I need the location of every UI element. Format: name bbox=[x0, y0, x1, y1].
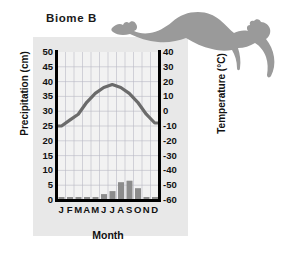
right-axis-ticks: 40 30 20 10 0 -10 -20 -30 -40 -50 -60 bbox=[163, 0, 193, 260]
right-tick-m30: -30 bbox=[163, 151, 177, 161]
plot-graphics bbox=[57, 52, 159, 200]
left-tick-45: 45 bbox=[27, 62, 53, 72]
climatogram-figure: Biome B bbox=[0, 0, 288, 260]
month-axis-labels: J F M A M J J A S O N D bbox=[57, 204, 159, 218]
right-axis-spine bbox=[158, 50, 161, 202]
left-tick-25: 25 bbox=[27, 121, 53, 131]
left-tick-50: 50 bbox=[27, 47, 53, 57]
right-tick-m10: -10 bbox=[163, 121, 177, 131]
right-tick-m20: -20 bbox=[163, 136, 177, 146]
right-tick-10: 10 bbox=[163, 91, 174, 101]
right-tick-30: 30 bbox=[163, 62, 174, 72]
right-tick-m60: -60 bbox=[163, 195, 177, 205]
right-tick-m40: -40 bbox=[163, 165, 177, 175]
left-tick-40: 40 bbox=[27, 77, 53, 87]
right-tick-20: 20 bbox=[163, 77, 174, 87]
left-axis-title: Precipitation (cm) bbox=[19, 34, 30, 154]
bottom-axis-spine bbox=[55, 199, 161, 202]
left-tick-35: 35 bbox=[27, 91, 53, 101]
month-label-dec: D bbox=[149, 204, 161, 215]
right-tick-0: 0 bbox=[163, 106, 168, 116]
left-tick-20: 20 bbox=[27, 136, 53, 146]
right-tick-40: 40 bbox=[163, 47, 174, 57]
left-tick-30: 30 bbox=[27, 106, 53, 116]
left-axis-spine bbox=[55, 50, 58, 202]
left-tick-15: 15 bbox=[27, 151, 53, 161]
right-axis-title: Temperature (°C) bbox=[216, 34, 227, 154]
left-tick-5: 5 bbox=[27, 180, 53, 190]
left-axis-ticks: 50 45 40 35 30 25 20 15 10 5 0 bbox=[27, 0, 53, 260]
plot-area bbox=[57, 52, 159, 200]
right-tick-m50: -50 bbox=[163, 180, 177, 190]
left-tick-0: 0 bbox=[27, 195, 53, 205]
x-axis-title: Month bbox=[57, 229, 159, 241]
chart-title: Biome B bbox=[46, 12, 97, 24]
left-tick-10: 10 bbox=[27, 165, 53, 175]
